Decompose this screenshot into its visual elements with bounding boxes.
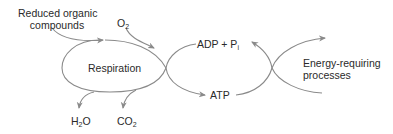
respiration-label: Respiration <box>88 62 141 74</box>
energy-line2: processes <box>303 69 381 81</box>
adp-text: ADP + P <box>197 38 237 50</box>
co2-output-arrow <box>123 90 136 108</box>
water-post: O <box>83 115 91 127</box>
energy-line1: Energy-requiring <box>303 57 381 69</box>
atp-text: ATP <box>210 89 230 101</box>
oxygen-base: O <box>117 17 125 29</box>
water-pre: H <box>71 115 79 127</box>
respiration-text: Respiration <box>88 62 141 74</box>
co2-sub: 2 <box>133 121 137 128</box>
oxygen-sub: 2 <box>125 23 129 30</box>
atp-to-adp-arrow <box>236 42 272 95</box>
adp-to-atp-arrow <box>166 44 205 95</box>
reduced-organic-compounds-label: Reduced organic compounds <box>18 7 96 31</box>
adp-sub: i <box>237 44 239 51</box>
water-label: H2O <box>71 115 91 127</box>
oxygen-label: O2 <box>117 17 129 29</box>
co2-label: CO2 <box>117 115 137 127</box>
reduced-organic-line2: compounds <box>18 19 96 31</box>
adp-pi-label: ADP + Pi <box>197 38 239 50</box>
co2-base: CO <box>117 115 133 127</box>
oxygen-input-arrow <box>126 28 154 48</box>
water-output-arrow <box>79 92 94 108</box>
atp-label: ATP <box>210 89 230 101</box>
energy-requiring-processes-label: Energy-requiring processes <box>303 57 381 81</box>
reduced-organic-line1: Reduced organic <box>18 7 96 19</box>
